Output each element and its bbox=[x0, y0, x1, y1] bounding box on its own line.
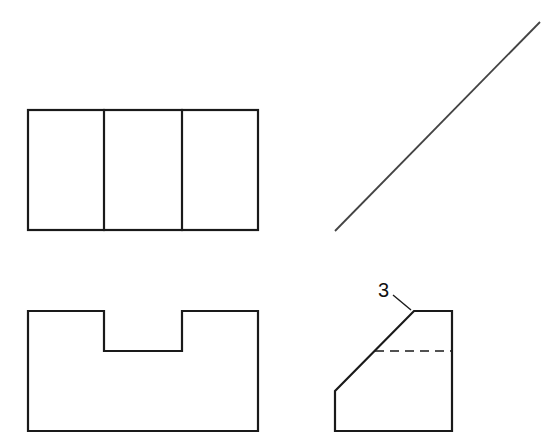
edge-label-3: 3 bbox=[378, 279, 411, 310]
edge-label-text: 3 bbox=[378, 279, 389, 301]
front-view bbox=[28, 311, 258, 431]
side-view bbox=[335, 311, 452, 431]
side-view-outline bbox=[335, 311, 452, 431]
front-view-outline bbox=[28, 311, 258, 431]
top-view-outline bbox=[28, 110, 258, 230]
miter-line bbox=[335, 22, 540, 231]
orthographic-drawing: 3 bbox=[0, 0, 558, 444]
leader-line bbox=[393, 295, 411, 310]
top-view bbox=[28, 110, 258, 230]
